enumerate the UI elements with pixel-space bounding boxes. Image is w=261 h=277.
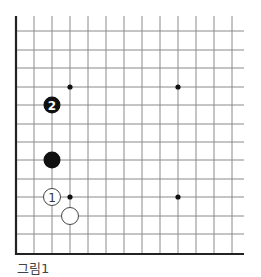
star-point-icon [67,84,72,89]
figure-caption: 그림1 [17,258,49,277]
stone-move-number: 2 [48,99,56,113]
white-stone-icon [62,208,79,225]
star-point-icon [175,84,180,89]
stone-move-number: 1 [48,191,56,205]
star-point-icon [67,194,72,199]
star-point-icon [175,194,180,199]
black-stone-icon [44,152,61,169]
go-board: 21 [0,0,261,277]
